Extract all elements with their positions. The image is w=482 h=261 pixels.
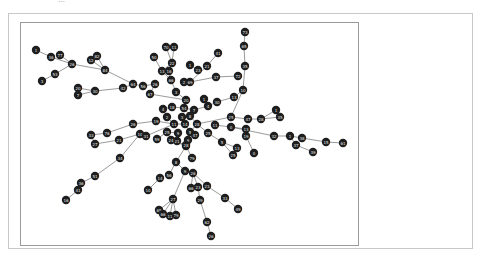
graph-node: 14 — [181, 120, 189, 128]
node-label: 9 — [177, 131, 180, 136]
node-label: 27 — [170, 197, 176, 202]
node-label: 11 — [171, 122, 177, 127]
node-label: 10 — [145, 188, 151, 193]
graph-node: 14 — [156, 174, 164, 182]
graph-node: 23 — [194, 66, 202, 74]
graph-node: 21 — [203, 62, 211, 70]
graph-node: 39 — [309, 148, 317, 156]
node-label: 35 — [277, 115, 283, 120]
node-label: 3 — [181, 115, 184, 120]
node-label: 26 — [190, 171, 196, 176]
node-label: 13 — [159, 69, 165, 74]
node-label: 33 — [88, 133, 94, 138]
graph-node: 0 — [227, 123, 235, 131]
node-label: 28 — [183, 143, 189, 148]
node-label: 9 — [184, 169, 187, 174]
graph-node: 41 — [74, 186, 82, 194]
node-label: 26 — [130, 122, 136, 127]
graph-node: 47 — [191, 131, 199, 139]
node-label: 39 — [310, 150, 316, 155]
graph-node: 25 — [163, 128, 171, 136]
graph-node: 50 — [150, 53, 158, 61]
graph-node: 4 — [204, 102, 212, 110]
node-label: 21 — [174, 139, 180, 144]
node-label: 1 — [35, 48, 38, 53]
node-label: 10 — [240, 88, 246, 93]
graph-node: 13 — [230, 93, 238, 101]
node-label: 3 — [41, 79, 44, 84]
node-label: 32 — [271, 134, 277, 139]
node-label: 0 — [253, 151, 256, 156]
graph-node: 9 — [174, 129, 182, 137]
graph-node: 77 — [56, 51, 64, 59]
node-label: 19 — [153, 119, 159, 124]
node-label: 67 — [147, 92, 153, 97]
node-label: 36 — [78, 181, 84, 186]
node-label: 62 — [204, 220, 210, 225]
graph-edge — [72, 64, 105, 70]
node-label: 73 — [242, 30, 248, 35]
graph-node: 82 — [93, 52, 101, 60]
node-label: 59 — [154, 137, 160, 142]
graph-edge — [150, 94, 186, 100]
node-label: 26 — [152, 82, 158, 87]
graph-node: 21 — [115, 136, 123, 144]
node-label: 28 — [258, 117, 264, 122]
node-label: 11 — [212, 123, 218, 128]
node-label: 56 — [166, 173, 172, 178]
graph-node: 1 — [286, 132, 294, 140]
node-label: 76 — [104, 131, 110, 136]
node-label: 37 — [213, 75, 219, 80]
node-label: 14 — [182, 122, 188, 127]
node-label: 79 — [173, 213, 179, 218]
graph-edge — [105, 70, 133, 84]
graph-node: 31 — [142, 132, 150, 140]
node-label: 37 — [293, 143, 299, 148]
node-label: 64 — [130, 82, 136, 87]
node-label: 65 — [241, 44, 247, 49]
node-label: 0 — [230, 125, 233, 130]
node-label: 54 — [181, 106, 187, 111]
graph-node: 27 — [169, 195, 177, 203]
node-label: 31 — [143, 134, 149, 139]
node-label: 16 — [166, 69, 172, 74]
graph-node: 29 — [196, 196, 204, 204]
node-label: 13 — [243, 127, 249, 132]
node-label: 19 — [243, 134, 249, 139]
graph-node: 54 — [180, 104, 188, 112]
node-label: 13 — [234, 146, 240, 151]
graph-node: 25 — [227, 113, 235, 121]
node-label: 25 — [228, 115, 234, 120]
graph-node: 59 — [153, 135, 161, 143]
graph-node: 30 — [213, 98, 221, 106]
graph-node: 2 — [163, 113, 171, 121]
graph-node: 1 — [186, 61, 194, 69]
graph-node: 66 — [167, 76, 175, 84]
graph-node: 33 — [221, 194, 229, 202]
node-label: 77 — [57, 53, 63, 58]
graph-node: 28 — [182, 141, 190, 149]
graph-node: 26 — [189, 169, 197, 177]
graph-node: 35 — [276, 113, 284, 121]
node-label: 41 — [75, 188, 81, 193]
graph-node: 30 — [91, 87, 99, 95]
node-label: 1 — [189, 63, 192, 68]
node-label: 23 — [195, 68, 201, 73]
graph-node: 41 — [214, 49, 222, 57]
node-label: 4 — [162, 107, 165, 112]
node-label: 25 — [164, 130, 170, 135]
node-label: 1 — [289, 134, 292, 139]
node-label: 21 — [116, 138, 122, 143]
graph-node: 70 — [162, 43, 170, 51]
graph-node: 32 — [270, 132, 278, 140]
node-label: 20 — [75, 86, 81, 91]
node-label: 15 — [323, 140, 329, 145]
node-label: 30 — [92, 89, 98, 94]
node-label: 51 — [92, 174, 98, 179]
graph-node: 56 — [139, 82, 147, 90]
graph-node: 36 — [47, 53, 55, 61]
node-label: 12 — [88, 58, 94, 63]
graph-edge — [95, 158, 120, 176]
graph-node: 27 — [91, 140, 99, 148]
node-label: 53 — [52, 72, 58, 77]
